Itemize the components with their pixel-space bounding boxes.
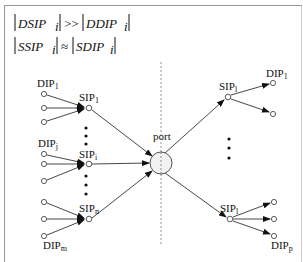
sip-node	[86, 216, 92, 222]
ellipsis-dots	[227, 137, 230, 159]
eq2-right: SDIP	[76, 39, 104, 54]
sip-label: SIPl	[219, 80, 238, 94]
dip-label: DIPp	[271, 239, 293, 253]
left-group-1	[47, 95, 152, 156]
dip-node	[41, 216, 46, 221]
equation-2: SSIP i ≈ SDIP i	[15, 37, 115, 57]
sip-node	[86, 161, 92, 167]
dip-node	[41, 151, 46, 156]
ellipsis-dots	[84, 174, 87, 195]
equation-1: DSIP i >> DDIP i	[15, 14, 129, 34]
eq1-right: DDIP	[85, 16, 117, 31]
sip-label: SIPl	[220, 202, 239, 216]
left-group-3	[47, 171, 152, 235]
dip-label: DIPj	[38, 137, 58, 151]
sip-node	[227, 216, 233, 222]
sip-node	[86, 105, 92, 111]
port-node	[150, 152, 172, 174]
dip-label: DIP1	[37, 77, 59, 91]
dip-node	[41, 233, 46, 238]
dip-node	[41, 161, 46, 166]
svg-text:>>: >>	[64, 16, 79, 31]
dip-node	[41, 199, 46, 204]
svg-text:≈: ≈	[61, 39, 68, 54]
ellipsis-dots	[84, 126, 87, 145]
svg-text:i: i	[52, 42, 56, 57]
eq1-left: DSIP	[17, 16, 46, 31]
dip-node	[41, 119, 46, 124]
eq2-left: SSIP	[18, 39, 43, 54]
dip-node	[271, 199, 276, 204]
dip-node	[271, 233, 276, 238]
svg-text:i: i	[55, 19, 59, 34]
svg-text:i: i	[110, 42, 114, 57]
svg-text:i: i	[124, 19, 128, 34]
dip-node	[41, 105, 46, 110]
dip-node	[270, 80, 275, 85]
sip-label: SIP1	[79, 91, 99, 105]
dip-label: DIPm	[43, 239, 68, 253]
right-group-2	[165, 173, 270, 234]
dip-node	[41, 178, 46, 183]
right-group-1	[165, 84, 269, 153]
sip-node	[225, 94, 231, 100]
dip-node	[271, 216, 276, 221]
sip-label: SIPn	[79, 202, 99, 216]
dip-node	[41, 91, 46, 96]
left-group-2	[47, 155, 149, 180]
dip-node	[270, 111, 275, 116]
sip-label: SIPi	[79, 148, 98, 162]
port-label: port	[153, 130, 171, 142]
dip-label: DIP1	[266, 67, 288, 81]
